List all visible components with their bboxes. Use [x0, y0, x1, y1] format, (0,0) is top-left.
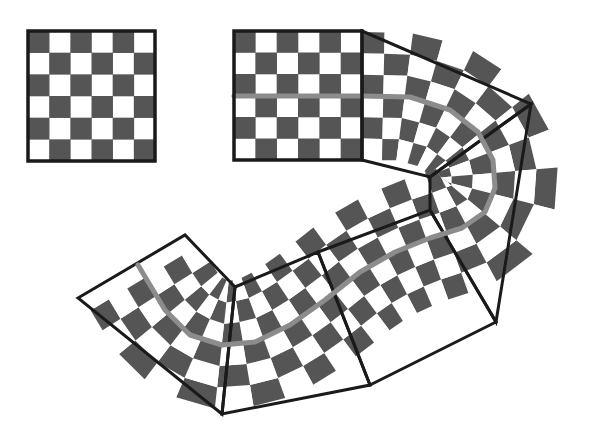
- light-cell: [361, 139, 383, 161]
- dark-cell: [217, 364, 250, 387]
- dark-cell: [49, 96, 70, 118]
- dark-cell: [362, 75, 384, 97]
- dark-cell: [92, 96, 113, 118]
- dark-cell: [113, 118, 134, 140]
- light-cell: [215, 385, 254, 408]
- light-cell: [362, 96, 384, 118]
- dark-cell: [255, 53, 277, 75]
- dark-cell: [92, 139, 113, 161]
- dark-cell: [298, 53, 320, 75]
- dark-cell: [70, 74, 91, 96]
- dark-cell: [341, 139, 363, 161]
- dark-cell: [92, 53, 113, 75]
- dark-cell: [113, 74, 134, 96]
- dark-cell: [319, 117, 341, 139]
- dark-cell: [134, 139, 155, 161]
- light-cell: [362, 53, 384, 75]
- light-cell: [382, 118, 401, 139]
- reference-checkerboard: [28, 31, 155, 161]
- dark-cell: [134, 53, 155, 75]
- dark-cell: [534, 167, 558, 209]
- light-cell: [383, 75, 407, 97]
- dark-cell: [134, 96, 155, 118]
- dark-cell: [319, 31, 341, 53]
- dark-cell: [234, 31, 256, 53]
- dark-cell: [382, 139, 399, 160]
- dark-cell: [361, 117, 383, 139]
- dark-cell: [383, 96, 405, 118]
- dark-cell: [28, 74, 49, 96]
- dark-cell: [70, 31, 91, 53]
- dark-cell: [341, 53, 363, 75]
- dark-cell: [255, 96, 277, 118]
- dark-cell: [298, 139, 320, 161]
- dark-cell: [319, 74, 341, 96]
- dark-cell: [384, 54, 410, 76]
- diagram-canvas: [0, 0, 593, 443]
- dark-cell: [234, 117, 256, 139]
- dark-cell: [28, 118, 49, 140]
- dark-cell: [113, 31, 134, 53]
- dark-cell: [341, 96, 363, 118]
- dark-cell: [277, 31, 299, 53]
- dark-cell: [49, 139, 70, 161]
- dark-cell: [49, 53, 70, 75]
- dark-cell: [234, 74, 256, 96]
- dark-cell: [28, 31, 49, 53]
- dark-cell: [255, 139, 277, 161]
- dark-cell: [277, 117, 299, 139]
- dark-cell: [298, 96, 320, 118]
- dark-cell: [70, 118, 91, 140]
- dark-cell: [277, 74, 299, 96]
